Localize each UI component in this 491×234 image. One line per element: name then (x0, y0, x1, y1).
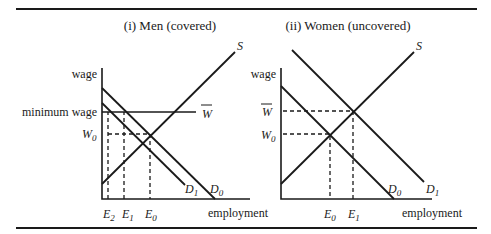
panel-women-uncovered: (ii) Women (uncovered) wage employment W… (251, 18, 463, 223)
e0-label: E0 (144, 207, 157, 223)
demand-curve-d0 (281, 86, 394, 199)
supply-label: S (416, 39, 422, 53)
labor-market-diagram: (i) Men (covered) wage employment minimu… (0, 0, 491, 234)
demand-curve-d0 (102, 88, 215, 199)
w0-label: W0 (261, 128, 276, 144)
supply-curve (102, 52, 235, 184)
panel-title: (ii) Women (uncovered) (285, 18, 410, 33)
d0-label: D0 (209, 182, 224, 198)
e2-label: E2 (102, 207, 115, 223)
e0-label: E0 (323, 207, 336, 223)
y-axis-label: wage (72, 67, 97, 81)
supply-curve (281, 52, 414, 184)
d1-label: D1 (425, 182, 439, 198)
w-bar-label: W (262, 105, 273, 119)
d1-label: D1 (184, 182, 198, 198)
e1-label: E1 (347, 207, 360, 223)
supply-label: S (237, 39, 243, 53)
panel-title: (i) Men (covered) (124, 18, 216, 33)
w0-label: W0 (82, 127, 97, 143)
x-axis-label: employment (208, 206, 269, 220)
e1-label: E1 (121, 207, 134, 223)
x-axis-label: employment (402, 206, 463, 220)
panel-men-covered: (i) Men (covered) wage employment minimu… (22, 18, 269, 223)
w0-e0-guide (283, 134, 330, 199)
minimum-wage-label: minimum wage (22, 105, 97, 119)
d0-label: D0 (387, 182, 402, 198)
y-axis-label: wage (251, 67, 276, 81)
axes (281, 68, 432, 199)
w-bar-label: W (202, 107, 213, 121)
